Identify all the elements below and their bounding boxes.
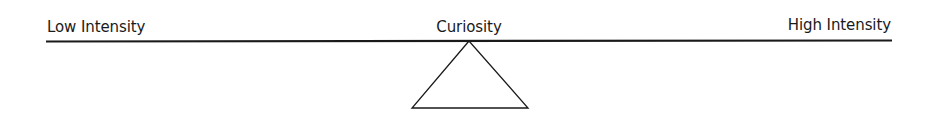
intensity-scale-diagram: Low Intensity Curiosity High Intensity bbox=[0, 0, 937, 115]
low-intensity-label: Low Intensity bbox=[47, 18, 145, 36]
high-intensity-label: High Intensity bbox=[788, 16, 891, 34]
center-label: Curiosity bbox=[436, 18, 501, 36]
fulcrum-triangle-icon bbox=[412, 41, 528, 108]
